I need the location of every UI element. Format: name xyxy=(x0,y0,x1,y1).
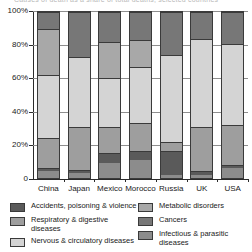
legend-item[interactable]: Infectious & parasitic diseases xyxy=(138,230,252,247)
bar-segment[interactable] xyxy=(69,57,90,127)
x-axis-tick-mark xyxy=(94,179,95,182)
bar-segment[interactable] xyxy=(191,39,212,127)
x-axis-label-usa: USA xyxy=(217,184,248,193)
bar-segment[interactable] xyxy=(130,151,151,159)
bar-segment[interactable] xyxy=(161,142,182,152)
y-axis-tick-label: 60% xyxy=(12,74,28,82)
bar-segment[interactable] xyxy=(69,173,90,178)
chart-legend: Accidents, poisoning & violenceRespirato… xyxy=(10,202,252,250)
bar-segment[interactable] xyxy=(99,42,120,79)
bar-segment[interactable] xyxy=(191,12,212,39)
bar-russia[interactable] xyxy=(160,11,183,179)
x-axis-label-china: China xyxy=(33,184,64,193)
bar-segment[interactable] xyxy=(130,12,151,40)
bar-china[interactable] xyxy=(37,11,60,179)
legend-label: Nervous & circulatory diseases xyxy=(31,237,134,246)
legend-item[interactable]: Cancers xyxy=(138,216,252,226)
bar-segment[interactable] xyxy=(38,29,59,75)
bar-segment[interactable] xyxy=(161,175,182,178)
bar-segment[interactable] xyxy=(69,127,90,170)
bar-segment[interactable] xyxy=(38,75,59,138)
bar-segment[interactable] xyxy=(161,55,182,141)
x-axis-line xyxy=(33,179,248,180)
legend-label: Infectious & parasitic diseases xyxy=(159,230,252,247)
y-axis-tick-label: 0 xyxy=(24,175,28,183)
legend-label: Metabolic disorders xyxy=(159,202,224,211)
legend-swatch-icon xyxy=(138,231,153,240)
bar-segment[interactable] xyxy=(130,67,151,123)
legend-swatch-icon xyxy=(138,203,153,212)
legend-swatch-icon xyxy=(10,217,25,226)
y-axis-tick-mark xyxy=(29,179,33,180)
x-axis-label-japan: Japan xyxy=(64,184,95,193)
plot-area xyxy=(33,11,248,179)
bar-segment[interactable] xyxy=(222,12,243,44)
bar-segment[interactable] xyxy=(99,12,120,42)
bar-uk[interactable] xyxy=(190,11,213,179)
bar-segment[interactable] xyxy=(191,127,212,172)
x-axis-tick-mark xyxy=(248,179,249,182)
bar-segment[interactable] xyxy=(222,168,243,178)
legend-column-left: Accidents, poisoning & violenceRespirato… xyxy=(10,202,138,251)
bar-segment[interactable] xyxy=(69,12,90,57)
bar-segment[interactable] xyxy=(38,171,59,178)
legend-swatch-icon xyxy=(10,238,25,247)
bar-segment[interactable] xyxy=(130,160,151,178)
bar-segment[interactable] xyxy=(191,175,212,178)
x-axis-tick-mark xyxy=(187,179,188,182)
chart-title-text: Causes of death as a share of total deat… xyxy=(14,0,252,3)
x-axis-label-morocco: Morocco xyxy=(125,184,156,193)
y-axis-tick-label: 100% xyxy=(8,7,28,15)
legend-item[interactable]: Metabolic disorders xyxy=(138,202,252,212)
x-axis-tick-mark xyxy=(156,179,157,182)
x-axis-tick-mark xyxy=(125,179,126,182)
chart-title-clipped: Causes of death as a share of total deat… xyxy=(14,0,252,7)
bar-segment[interactable] xyxy=(161,12,182,55)
bar-segment[interactable] xyxy=(99,127,120,154)
bar-segment[interactable] xyxy=(38,12,59,29)
legend-item[interactable]: Respiratory & digestive diseases xyxy=(10,216,138,233)
x-axis-label-uk: UK xyxy=(187,184,218,193)
bar-segment[interactable] xyxy=(130,123,151,151)
x-axis-tick-mark xyxy=(217,179,218,182)
y-axis-tick-label: 20% xyxy=(12,141,28,149)
legend-item[interactable]: Accidents, poisoning & violence xyxy=(10,202,138,212)
legend-label: Respiratory & digestive diseases xyxy=(31,216,138,233)
bar-usa[interactable] xyxy=(221,11,244,179)
legend-label: Cancers xyxy=(159,216,187,225)
legend-swatch-icon xyxy=(138,217,153,226)
bar-segment[interactable] xyxy=(38,138,59,168)
x-axis-label-russia: Russia xyxy=(156,184,187,193)
bar-segment[interactable] xyxy=(161,151,182,174)
bar-segment[interactable] xyxy=(99,78,120,126)
legend-label: Accidents, poisoning & violence xyxy=(31,202,136,211)
stacked-bar-chart: Causes of death as a share of total deat… xyxy=(0,0,252,252)
y-axis-tick-label: 80% xyxy=(12,41,28,49)
legend-item[interactable]: Nervous & circulatory diseases xyxy=(10,237,138,247)
bar-mexico[interactable] xyxy=(98,11,121,179)
bar-segment[interactable] xyxy=(99,153,120,163)
bar-segment[interactable] xyxy=(222,44,243,125)
legend-swatch-icon xyxy=(10,203,25,212)
bar-segment[interactable] xyxy=(99,163,120,178)
bar-segment[interactable] xyxy=(222,125,243,165)
legend-column-right: Metabolic disordersCancersInfectious & p… xyxy=(138,202,252,251)
y-axis-tick-label: 40% xyxy=(12,108,28,116)
bar-morocco[interactable] xyxy=(129,11,152,179)
x-axis-label-mexico: Mexico xyxy=(94,184,125,193)
bar-japan[interactable] xyxy=(68,11,91,179)
x-axis-tick-mark xyxy=(64,179,65,182)
bar-segment[interactable] xyxy=(130,40,151,67)
bar-group xyxy=(33,11,248,179)
